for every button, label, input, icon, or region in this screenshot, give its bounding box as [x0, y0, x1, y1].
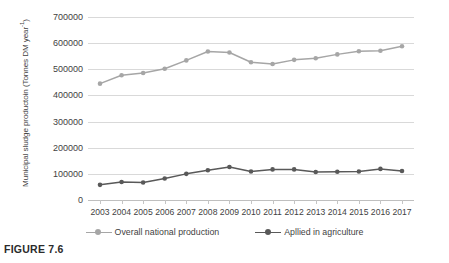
legend-label: Overall national production — [115, 227, 220, 237]
x-tick-mark-2007 — [186, 200, 187, 204]
data-point — [206, 49, 211, 54]
data-point — [184, 58, 189, 63]
data-point — [141, 180, 146, 185]
x-tick-label-2010: 2010 — [241, 207, 260, 217]
data-point — [98, 183, 103, 188]
data-point — [292, 58, 297, 63]
y-axis-title: Municipal sludge productoin (Tonnes DM y… — [17, 5, 31, 201]
data-point — [313, 170, 318, 175]
x-tick-mark-2012 — [294, 200, 295, 204]
x-tick-label-2016: 2016 — [371, 207, 390, 217]
x-tick-mark-2011 — [273, 200, 274, 204]
y-tick-label-400000: 400000 — [53, 90, 83, 100]
x-tick-label-2005: 2005 — [134, 207, 153, 217]
data-point — [227, 165, 232, 170]
data-point — [292, 167, 297, 172]
x-tick-mark-2004 — [122, 200, 123, 204]
legend-label: Apllied in agriculture — [284, 227, 363, 237]
x-tick-label-2013: 2013 — [306, 207, 325, 217]
y-tick-label-200000: 200000 — [53, 143, 83, 153]
x-tick-label-2004: 2004 — [112, 207, 131, 217]
x-tick-mark-2008 — [208, 200, 209, 204]
y-tick-label-700000: 700000 — [53, 12, 83, 22]
series-2 — [98, 165, 405, 187]
x-tick-mark-2017 — [402, 200, 403, 204]
data-point — [162, 176, 167, 181]
data-point — [270, 62, 275, 67]
data-point — [400, 169, 405, 174]
data-point — [249, 169, 254, 174]
plot-region: 0100000200000300000400000500000600000700… — [88, 17, 414, 200]
x-tick-label-2006: 2006 — [155, 207, 174, 217]
data-point — [378, 167, 383, 172]
legend-item-2[interactable]: Apllied in agriculture — [255, 227, 363, 237]
y-tick-label-500000: 500000 — [53, 64, 83, 74]
x-tick-mark-2015 — [359, 200, 360, 204]
data-point — [141, 71, 146, 76]
y-axis-title-main: Municipal sludge productoin (Tonnes DM — [21, 44, 30, 186]
data-point — [378, 48, 383, 53]
data-point — [270, 167, 275, 172]
data-point — [119, 73, 124, 78]
data-point — [184, 172, 189, 177]
data-point — [335, 52, 340, 57]
data-point — [227, 50, 232, 55]
x-tick-label-2003: 2003 — [90, 207, 109, 217]
legend-swatch-icon — [86, 228, 112, 237]
x-tick-mark-2014 — [337, 200, 338, 204]
data-point — [400, 44, 405, 49]
x-tick-label-2011: 2011 — [263, 207, 281, 217]
y-tick-label-600000: 600000 — [53, 38, 83, 48]
data-point — [357, 49, 362, 54]
x-tick-label-2017: 2017 — [392, 207, 411, 217]
y-tick-label-300000: 300000 — [53, 117, 83, 127]
data-point — [119, 180, 124, 185]
y-axis-title-tail: ) — [21, 19, 30, 22]
x-tick-label-2012: 2012 — [285, 207, 304, 217]
data-point — [206, 168, 211, 173]
x-tick-mark-2005 — [143, 200, 144, 204]
x-tick-mark-2009 — [229, 200, 230, 204]
x-tick-label-2014: 2014 — [328, 207, 347, 217]
figure-container: Municipal sludge productoin (Tonnes DM y… — [0, 0, 449, 263]
figure-caption: FIGURE 7.6 — [4, 243, 64, 255]
x-tick-label-2009: 2009 — [220, 207, 239, 217]
legend-item-1[interactable]: Overall national production — [86, 227, 220, 237]
x-tick-mark-2003 — [100, 200, 101, 204]
chart-area: Municipal sludge productoin (Tonnes DM y… — [0, 0, 449, 222]
series-1 — [98, 44, 405, 86]
y-tick-label-100000: 100000 — [53, 169, 83, 179]
x-tick-mark-2006 — [165, 200, 166, 204]
y-axis-title-exponent: -1 — [19, 22, 25, 27]
data-point — [357, 169, 362, 174]
x-tick-mark-2010 — [251, 200, 252, 204]
x-tick-label-2008: 2008 — [198, 207, 217, 217]
y-axis-title-sub: year — [21, 27, 30, 42]
data-point — [249, 60, 254, 65]
data-point — [162, 66, 167, 71]
data-point — [335, 169, 340, 174]
data-point — [98, 81, 103, 86]
x-tick-label-2007: 2007 — [177, 207, 196, 217]
x-tick-label-2015: 2015 — [349, 207, 368, 217]
x-tick-mark-2016 — [380, 200, 381, 204]
data-point — [313, 56, 318, 61]
y-tick-label-0: 0 — [78, 195, 83, 205]
x-tick-mark-2013 — [316, 200, 317, 204]
legend-swatch-icon — [255, 228, 281, 237]
chart-legend: Overall national productionApllied in ag… — [0, 222, 449, 242]
series-plot — [88, 17, 414, 200]
